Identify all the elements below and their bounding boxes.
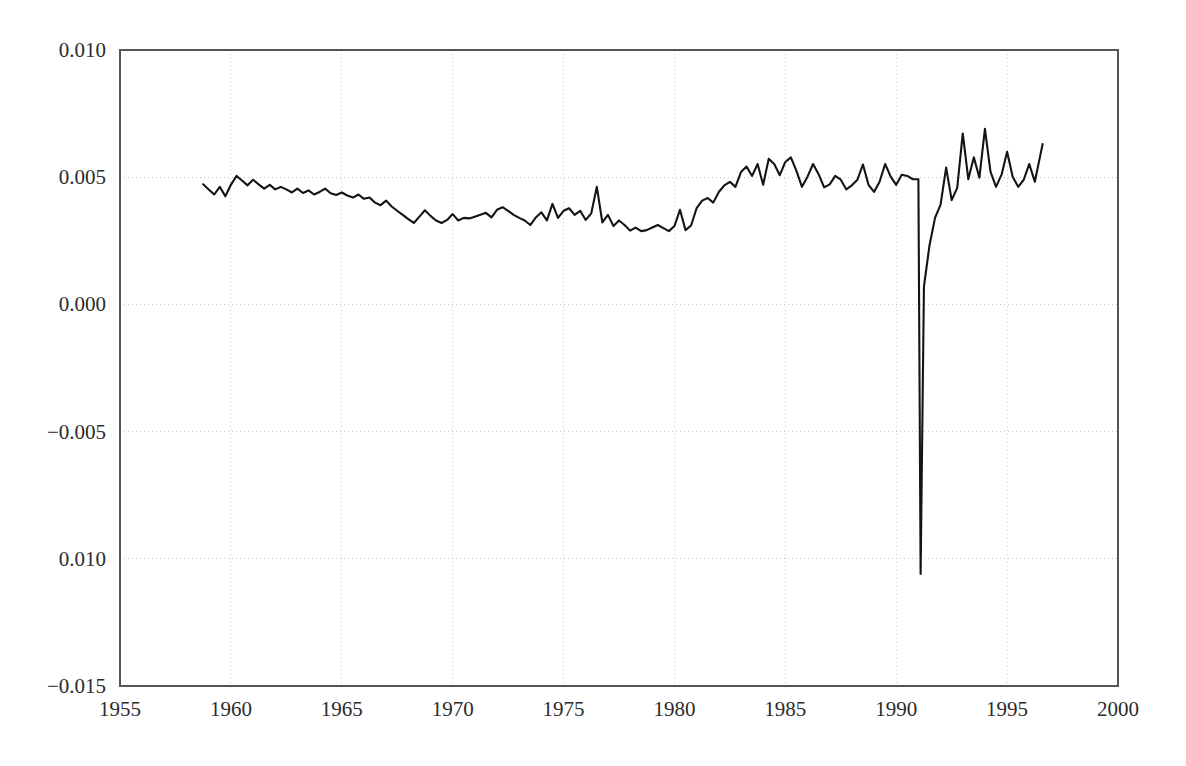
y-tick-label: 0.005 [59,165,106,189]
y-tick-label: 0.010 [59,38,106,62]
y-tick-label: 0.000 [59,292,106,316]
x-tick-label: 1985 [764,697,806,721]
x-tick-label: 2000 [1097,697,1139,721]
line-chart-canvas: 0.0100.0050.000−0.0050.010−0.015 1955196… [0,0,1186,766]
x-tick-label: 1980 [653,697,695,721]
x-tick-label: 1975 [543,697,585,721]
x-tick-label: 1955 [99,697,141,721]
x-tick-label: 1965 [321,697,363,721]
y-tick-label: −0.005 [47,420,106,444]
x-tick-label: 1995 [986,697,1028,721]
chart-background [0,0,1186,766]
chart-figure: 0.0100.0050.000−0.0050.010−0.015 1955196… [0,0,1186,766]
x-tick-label: 1990 [875,697,917,721]
y-tick-label: −0.015 [47,674,106,698]
y-tick-label: 0.010 [59,547,106,571]
x-tick-label: 1970 [432,697,474,721]
x-tick-label: 1960 [210,697,252,721]
